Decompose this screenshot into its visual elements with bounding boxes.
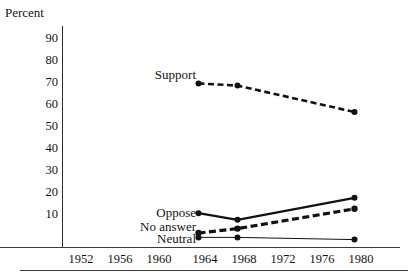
line-chart: Percent 90 80 70 60 50 40 30 20 10 Suppo… bbox=[0, 0, 408, 278]
series-line-oppose bbox=[199, 198, 355, 220]
data-point bbox=[352, 237, 358, 243]
data-point bbox=[352, 195, 358, 201]
data-point bbox=[196, 210, 202, 216]
data-point bbox=[351, 206, 357, 212]
series-line-neutral bbox=[199, 237, 355, 239]
data-point bbox=[196, 80, 202, 86]
series-line-support bbox=[199, 83, 355, 112]
data-point bbox=[235, 83, 241, 89]
data-point bbox=[235, 217, 241, 223]
data-point bbox=[196, 234, 202, 240]
data-point bbox=[234, 225, 240, 231]
data-point bbox=[235, 234, 241, 240]
plot-area bbox=[0, 0, 408, 278]
data-point bbox=[352, 109, 358, 115]
